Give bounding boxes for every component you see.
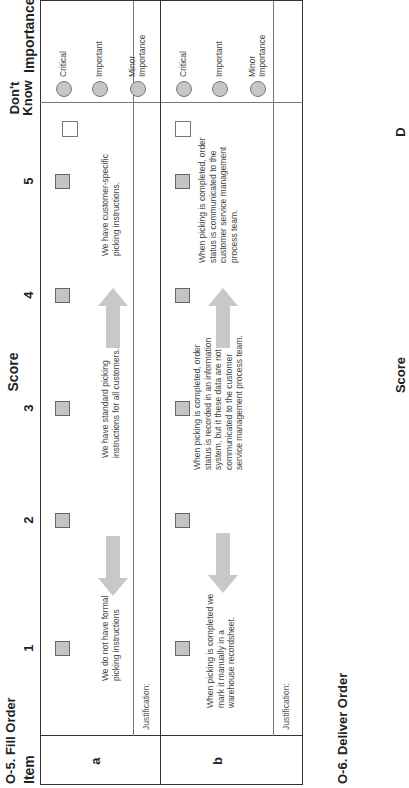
arrow-right-icon [98, 288, 128, 348]
row-b-score-5-checkbox[interactable] [175, 174, 190, 189]
row-a-score-4-checkbox[interactable] [55, 288, 70, 303]
header-dont-know: Don't Know [8, 73, 34, 123]
section-title-deliver-order: O-6. Deliver Order [335, 673, 350, 784]
row-a-importance-critical[interactable]: Critical [56, 51, 72, 97]
radio-circle-icon [56, 81, 72, 97]
row-b-score-4-checkbox[interactable] [175, 288, 190, 303]
item-column-divider [40, 735, 303, 736]
row-a-score-1-checkbox[interactable] [55, 641, 70, 656]
row-b-score-1-description: When picking is completed we mark it man… [205, 588, 237, 708]
radio-circle-icon [176, 81, 192, 97]
arrow-left-icon [208, 533, 238, 593]
row-b-importance-critical[interactable]: Critical [176, 51, 192, 97]
radio-circle-icon [250, 81, 266, 97]
header-score-4: 4 [22, 285, 36, 305]
row-b-score-3-checkbox[interactable] [175, 401, 190, 416]
header-score-2: 2 [22, 510, 36, 530]
row-b-score-3-description: When picking is completed, order status … [192, 330, 245, 470]
row-a-score-5-description: We have customer-specific picking instru… [100, 126, 121, 256]
header-importance: Importance [22, 0, 36, 73]
row-a-importance-minor[interactable]: Minor Importance [128, 27, 147, 97]
importance-column-divider [40, 102, 303, 103]
row-a-dont-know-checkbox[interactable] [62, 121, 78, 137]
header-score: Score [6, 342, 20, 402]
header-score-1: 1 [22, 638, 36, 658]
rotated-document-page: O-5. Fill Order Item Score 1 2 3 4 5 Don… [0, 0, 409, 788]
row-b-importance-important[interactable]: Important [212, 41, 228, 97]
row-b-dont-know-checkbox[interactable] [175, 121, 191, 137]
row-b-score-1-checkbox[interactable] [175, 641, 190, 656]
fill-order-table [40, 0, 303, 785]
section2-header-partial: D [394, 112, 408, 152]
row-a-score-5-checkbox[interactable] [55, 174, 70, 189]
row-a-item-label: a [88, 746, 103, 776]
row-a-justification-divider [133, 1, 134, 736]
row-b-score-2-checkbox[interactable] [175, 513, 190, 528]
row-b-importance-minor[interactable]: Minor Importance [248, 27, 267, 97]
radio-circle-icon [212, 81, 228, 97]
header-item: Item [22, 754, 36, 784]
row-a-importance-important[interactable]: Important [92, 41, 108, 97]
header-score-5: 5 [22, 171, 36, 191]
arrow-right-icon [208, 288, 238, 348]
arrow-left-icon [98, 536, 128, 596]
row-a-justification-label: Justification: [141, 683, 151, 730]
row-a-score-3-checkbox[interactable] [55, 401, 70, 416]
radio-circle-icon [130, 81, 146, 97]
radio-circle-icon [92, 81, 108, 97]
row-b-justification-label: Justification: [281, 683, 291, 730]
row-b-score-5-description: When picking is completed, order status … [197, 123, 239, 263]
row-b-item-label: b [210, 746, 225, 776]
row-divider-a-b [160, 0, 161, 785]
section2-header-score: Score [394, 350, 408, 400]
row-b-justification-divider [273, 1, 274, 736]
header-score-3: 3 [22, 398, 36, 418]
section-title-fill-order: O-5. Fill Order [3, 697, 18, 784]
row-a-score-2-checkbox[interactable] [55, 513, 70, 528]
